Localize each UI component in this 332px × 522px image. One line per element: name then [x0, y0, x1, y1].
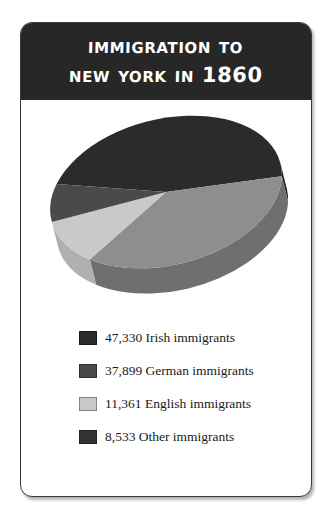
legend-item-other: 8,533 Other immigrants: [79, 420, 311, 453]
page-title-line-1: Immigration To: [88, 32, 244, 61]
chart-legend: 47,330 Irish immigrants 37,899 German im…: [21, 321, 311, 453]
legend-label-other: 8,533 Other immigrants: [105, 429, 234, 445]
legend-swatch-german: [79, 364, 97, 378]
pie-chart-area: [21, 100, 311, 315]
page-title-line-2: New York In 1860: [69, 61, 263, 90]
legend-swatch-english: [79, 397, 97, 411]
legend-item-irish: 47,330 Irish immigrants: [79, 321, 311, 354]
legend-label-irish: 47,330 Irish immigrants: [105, 330, 235, 346]
legend-item-english: 11,361 English immigrants: [79, 387, 311, 420]
legend-swatch-irish: [79, 331, 97, 345]
legend-swatch-other: [79, 430, 97, 444]
legend-label-english: 11,361 English immigrants: [105, 396, 251, 412]
legend-label-german: 37,899 German immigrants: [105, 363, 254, 379]
infographic-card: Immigration To New York In 1860 47,330 I…: [20, 22, 312, 497]
pie-chart: [41, 100, 291, 310]
card-header: Immigration To New York In 1860: [21, 23, 311, 100]
page-root: Immigration To New York In 1860 47,330 I…: [0, 0, 332, 522]
legend-item-german: 37,899 German immigrants: [79, 354, 311, 387]
